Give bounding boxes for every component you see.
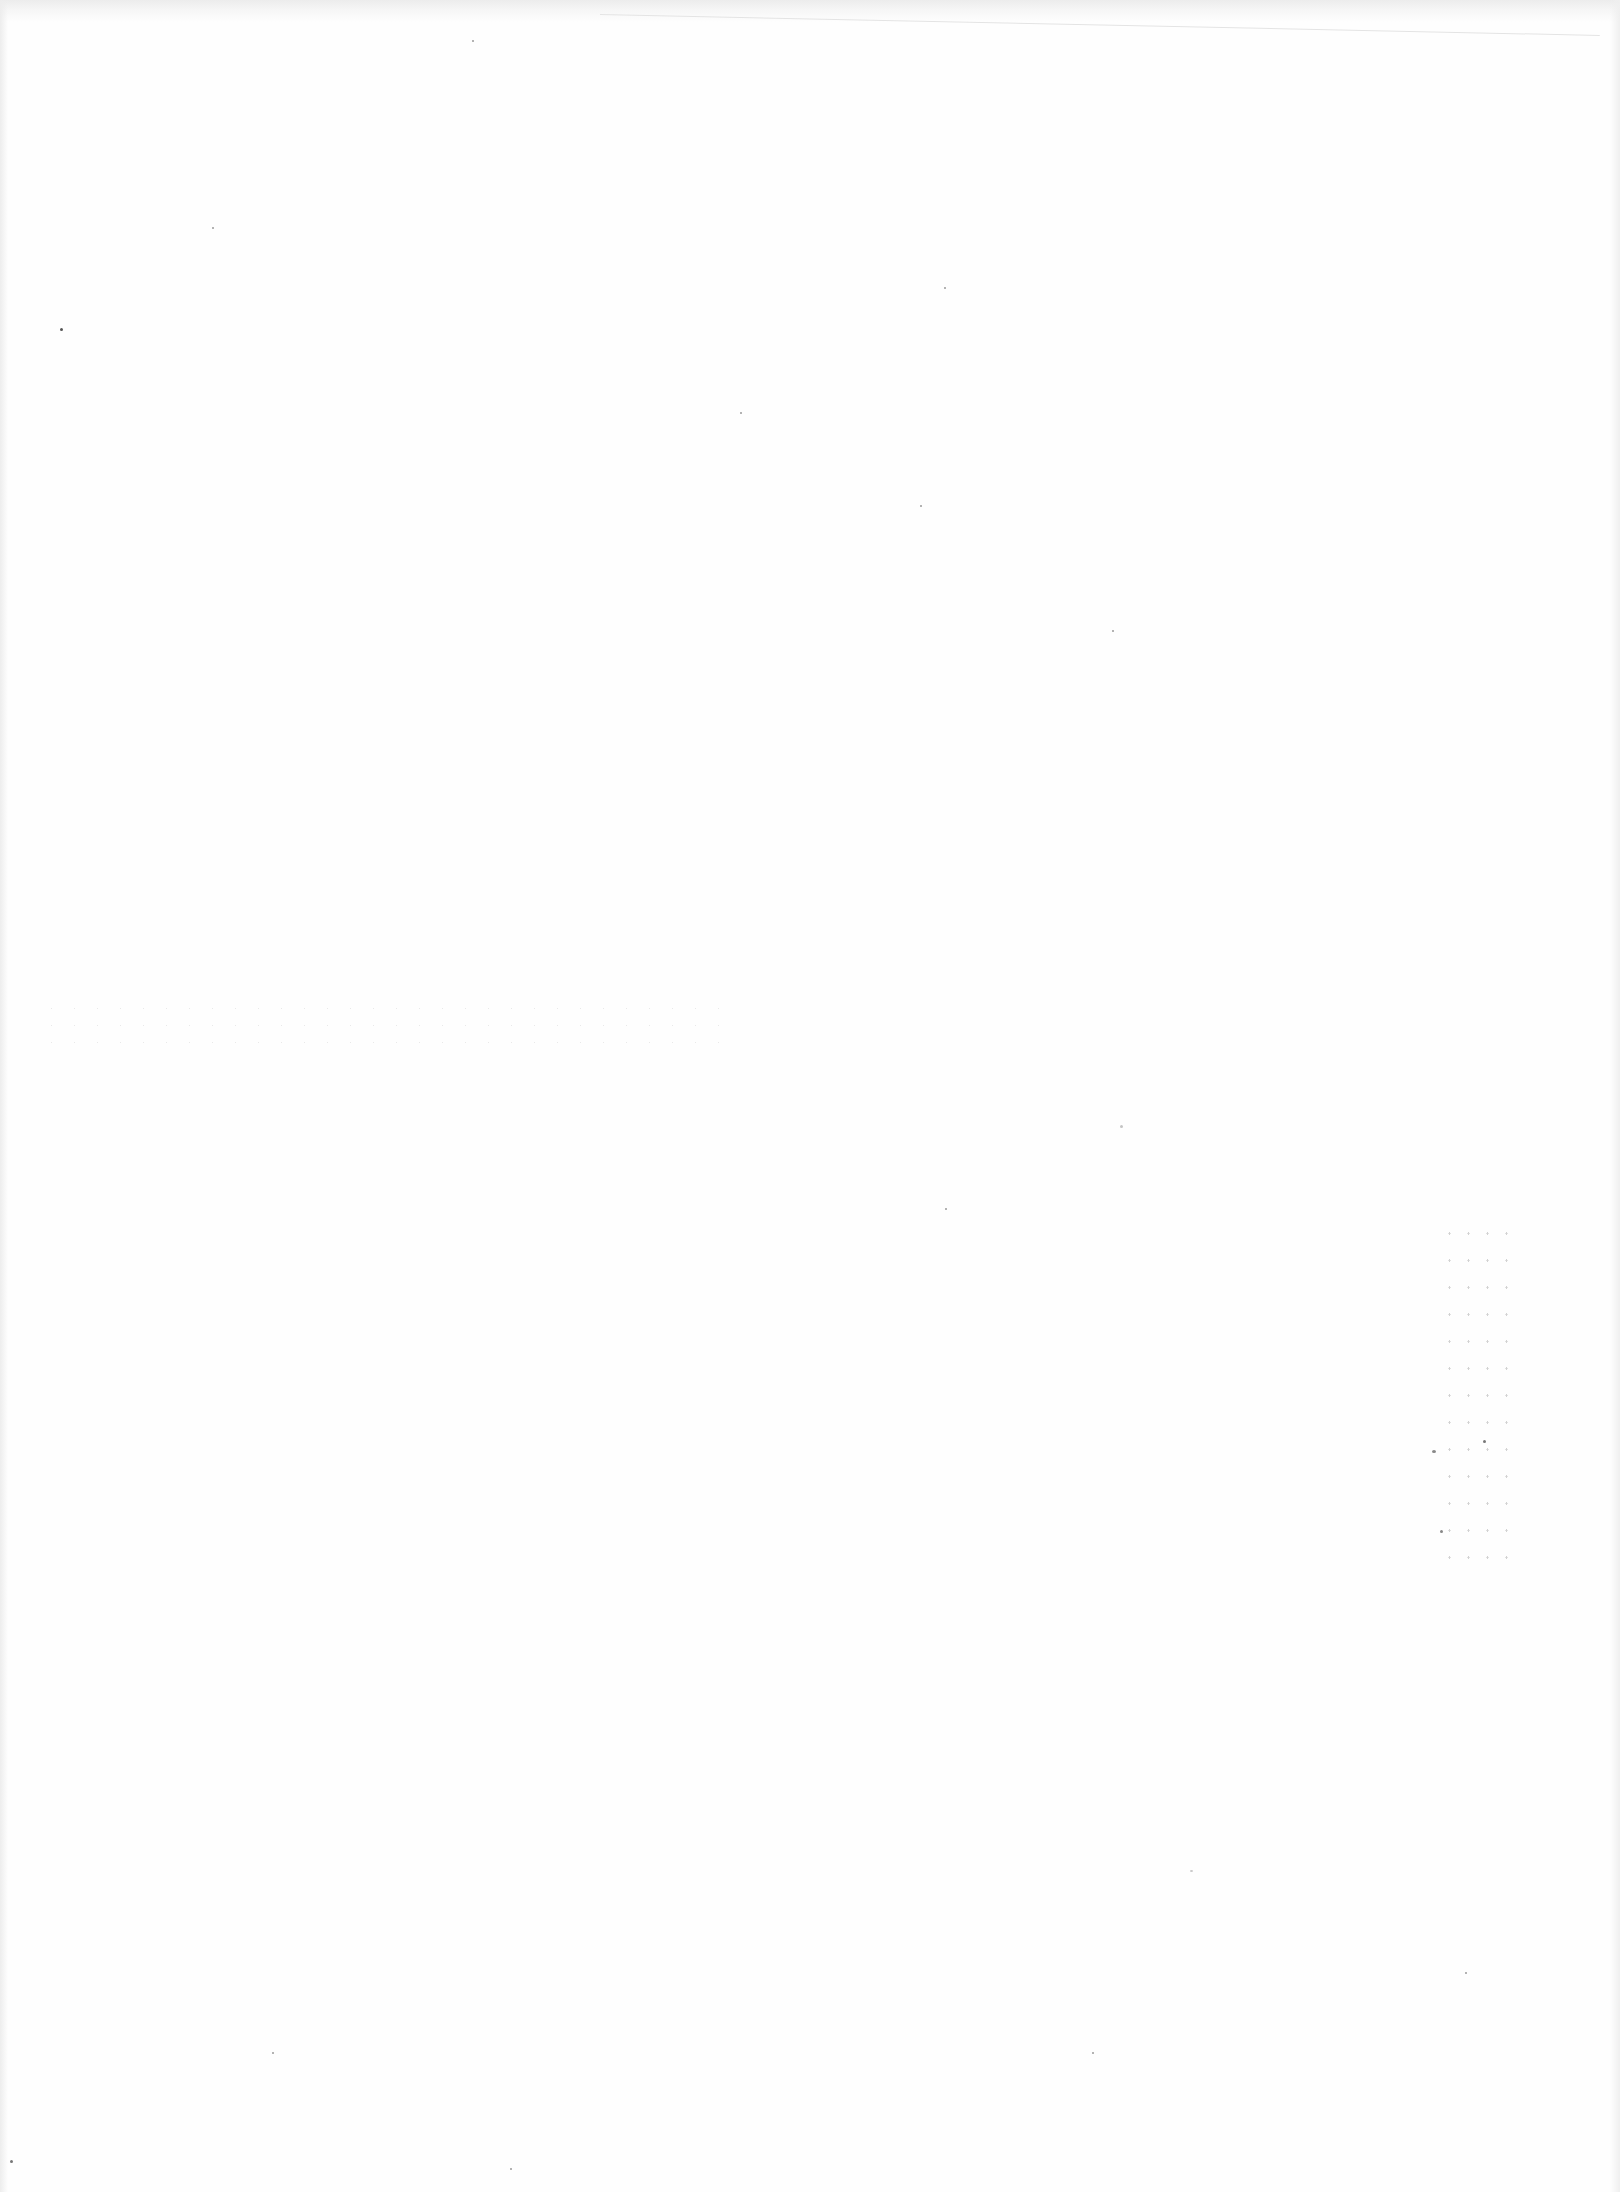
speck-cluster <box>1440 1220 1520 1560</box>
speck <box>1483 1440 1486 1443</box>
speck <box>272 2052 274 2054</box>
blank-scanned-page <box>0 0 1620 2192</box>
speck <box>1120 1125 1123 1128</box>
speck <box>1190 1870 1193 1872</box>
bleed-through-noise <box>40 1000 740 1050</box>
speck <box>945 1208 947 1210</box>
speck <box>1432 1450 1436 1453</box>
speck <box>944 287 946 289</box>
speck <box>740 412 742 414</box>
speck <box>1112 630 1114 632</box>
speck <box>212 227 214 229</box>
speck <box>472 40 474 42</box>
speck <box>10 2160 13 2163</box>
speck <box>920 505 922 507</box>
speck <box>1092 2052 1094 2054</box>
scan-right-edge-shadow <box>1610 0 1620 2192</box>
speck <box>60 328 63 331</box>
speck <box>1465 1972 1467 1974</box>
scan-left-edge-shadow <box>0 0 8 2192</box>
speck <box>510 2168 512 2170</box>
speck <box>1440 1530 1443 1533</box>
